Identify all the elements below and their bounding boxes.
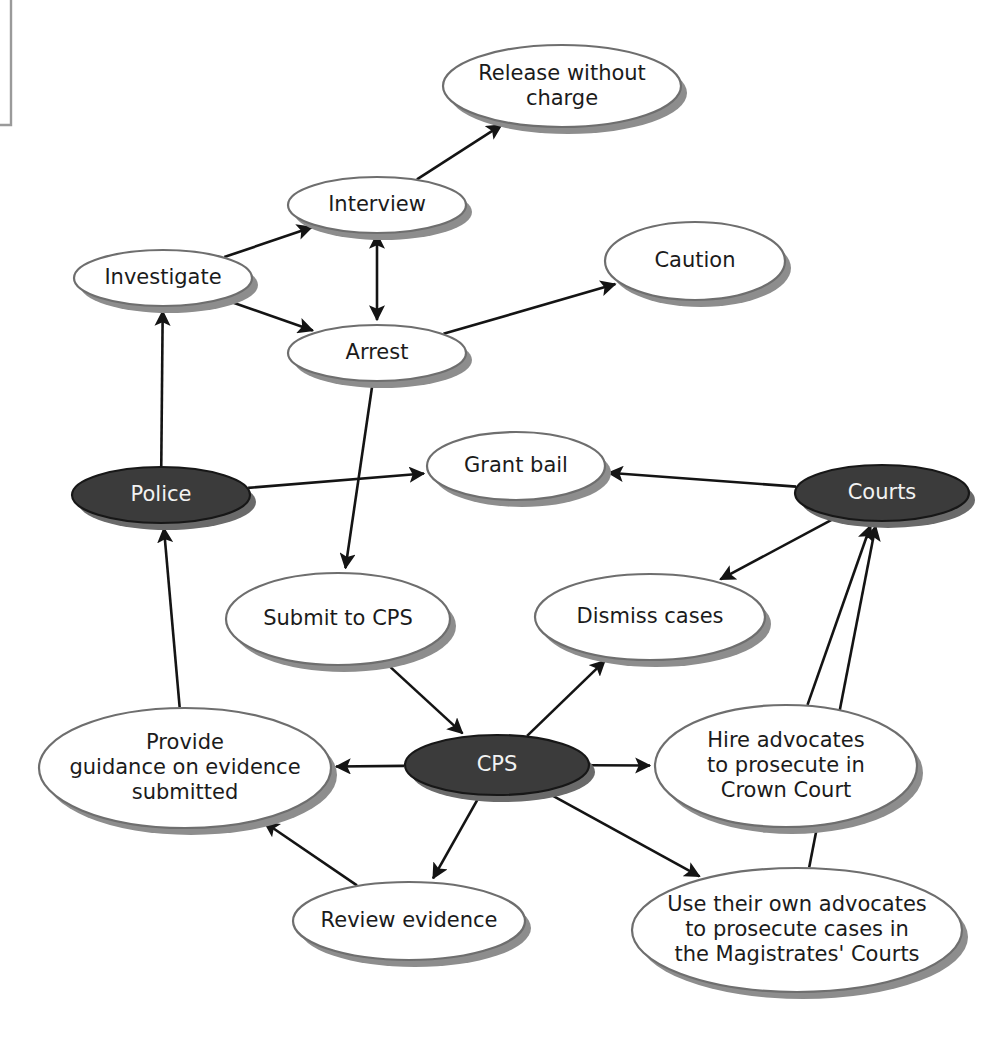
edge-arrest-to-submit_cps	[345, 382, 372, 568]
edge-review_evidence-to-provide_guidance	[264, 822, 357, 885]
edge-cps-to-use_own_advocates	[545, 791, 700, 876]
node-police[interactable]: Police	[72, 467, 256, 530]
node-release[interactable]: Release withoutcharge	[443, 45, 687, 134]
edge-provide_guidance-to-police	[164, 528, 180, 707]
node-label-use_own_advocates: Use their own advocatesto prosecute case…	[667, 892, 927, 966]
edge-courts-to-dismiss	[720, 517, 836, 579]
edge-cps-to-provide_guidance	[336, 766, 404, 767]
node-label-dismiss: Dismiss cases	[576, 604, 723, 628]
node-dismiss[interactable]: Dismiss cases	[535, 574, 771, 667]
edge-courts-to-grant_bail	[608, 473, 796, 487]
node-label-cps: CPS	[477, 752, 518, 776]
flow-diagram-canvas: Release withoutchargeInterviewCautionInv…	[0, 0, 1008, 1038]
edge-cps-to-review_evidence	[433, 795, 480, 878]
node-label-arrest: Arrest	[346, 340, 409, 364]
node-cps[interactable]: CPS	[405, 735, 595, 802]
node-review_evidence[interactable]: Review evidence	[293, 882, 531, 967]
node-label-police: Police	[131, 482, 192, 506]
node-provide_guidance[interactable]: Provideguidance on evidencesubmitted	[39, 708, 337, 835]
node-submit_cps[interactable]: Submit to CPS	[226, 573, 456, 672]
edge-hire_advocates-to-courts	[808, 526, 871, 705]
edge-investigate-to-arrest	[223, 299, 312, 330]
node-label-interview: Interview	[328, 192, 426, 216]
edge-submit_cps-to-cps	[384, 662, 462, 734]
edge-police-to-investigate	[161, 311, 162, 466]
node-arrest[interactable]: Arrest	[288, 325, 472, 388]
node-label-submit_cps: Submit to CPS	[263, 606, 413, 630]
node-hire_advocates[interactable]: Hire advocatesto prosecute inCrown Court	[655, 705, 923, 834]
node-label-courts: Courts	[848, 480, 917, 504]
node-label-caution: Caution	[654, 248, 735, 272]
node-grant_bail[interactable]: Grant bail	[427, 432, 611, 507]
node-use_own_advocates[interactable]: Use their own advocatesto prosecute case…	[632, 868, 968, 999]
edge-cps-to-dismiss	[527, 661, 605, 736]
node-label-hire_advocates: Hire advocatesto prosecute inCrown Court	[707, 728, 865, 802]
edge-arrest-to-caution	[443, 284, 615, 334]
edge-investigate-to-interview	[224, 227, 312, 257]
edge-interview-to-release	[417, 125, 502, 179]
node-investigate[interactable]: Investigate	[74, 250, 258, 313]
node-label-review_evidence: Review evidence	[321, 908, 498, 932]
node-layer: Release withoutchargeInterviewCautionInv…	[39, 45, 975, 999]
page-corner-frame	[0, 0, 11, 125]
flow-diagram-svg: Release withoutchargeInterviewCautionInv…	[0, 0, 1008, 1038]
edge-police-to-grant_bail	[248, 474, 424, 488]
node-courts[interactable]: Courts	[795, 465, 975, 528]
node-caution[interactable]: Caution	[605, 222, 791, 307]
node-label-grant_bail: Grant bail	[464, 453, 568, 477]
node-interview[interactable]: Interview	[288, 177, 472, 240]
node-label-investigate: Investigate	[104, 265, 221, 289]
